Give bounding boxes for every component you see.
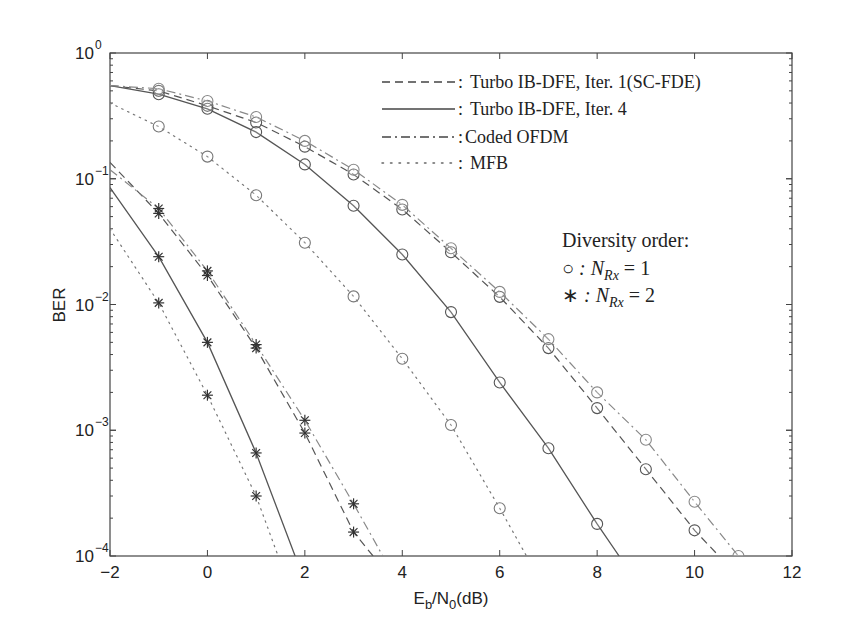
legend-label: Turbo IB-DFE, Iter. 4 (470, 99, 627, 119)
x-axis-label: Eb/N0(dB) (414, 589, 489, 612)
x-tick-label: 12 (783, 563, 802, 582)
x-tick-label: 2 (300, 563, 309, 582)
x-tick-label: 0 (203, 563, 212, 582)
star-marker (299, 428, 310, 439)
circle-marker (733, 551, 744, 562)
y-tick-exponent: −3 (95, 415, 109, 429)
legend-label: Turbo IB-DFE, Iter. 1(SC-FDE) (470, 72, 701, 93)
legend-colon: : (458, 153, 463, 173)
circle-marker (689, 525, 700, 536)
x-tick-label: 8 (592, 563, 601, 582)
circle-marker (494, 377, 505, 388)
y-tick-labels: 10010−110−210−310−4 (75, 38, 109, 566)
y-tick-exponent: −1 (95, 164, 109, 178)
circle-marker (153, 83, 164, 94)
circle-marker (446, 307, 457, 318)
circle-marker (299, 135, 310, 146)
circle-marker (689, 496, 700, 507)
circle-marker (397, 249, 408, 260)
y-axis-label: BER (50, 288, 69, 323)
star-marker (202, 390, 213, 401)
legend-label: Coded OFDM (465, 127, 569, 147)
star-marker (153, 251, 164, 262)
circle-marker (543, 334, 554, 345)
star-marker (251, 491, 262, 502)
x-tick-label: −2 (100, 563, 119, 582)
star-marker (153, 203, 164, 214)
circle-marker (251, 190, 262, 201)
star-marker (348, 498, 359, 509)
circle-marker (251, 127, 262, 138)
circle-marker (543, 443, 554, 454)
x-tick-label: 4 (398, 563, 407, 582)
circle-marker (348, 164, 359, 175)
y-tick-label: 10 (75, 547, 94, 566)
circle-marker (494, 286, 505, 297)
y-tick-exponent: 0 (95, 38, 102, 52)
circle-marker (202, 151, 213, 162)
circle-marker (251, 111, 262, 122)
plot-frame (110, 53, 792, 556)
circle-marker (348, 291, 359, 302)
circle-marker (640, 434, 651, 445)
star-marker (348, 527, 359, 538)
annotation-title: Diversity order: (562, 229, 689, 252)
x-tick-label: 6 (495, 563, 504, 582)
star-marker (153, 297, 164, 308)
circle-marker (299, 237, 310, 248)
star-marker (299, 415, 310, 426)
circle-marker (494, 503, 505, 514)
y-tick-label: 10 (75, 170, 94, 189)
ber-chart: −2024681012 10010−110−210−310−4 Eb/N0(dB… (0, 0, 842, 641)
circle-marker (592, 518, 603, 529)
legend-colon: : (458, 99, 463, 119)
legend-colon: : (458, 127, 463, 147)
y-tick-exponent: −2 (95, 290, 109, 304)
star-marker (251, 339, 262, 350)
circle-marker (397, 353, 408, 364)
circle-marker (348, 200, 359, 211)
svg-text:Eb/N0(dB): Eb/N0(dB) (414, 589, 489, 612)
x-tick-label: 10 (685, 563, 704, 582)
y-tick-label: 10 (75, 296, 94, 315)
circle-marker (153, 121, 164, 132)
y-axis-title: BER (50, 288, 69, 323)
circle-marker (202, 96, 213, 107)
circle-marker (640, 464, 651, 475)
y-tick-exponent: −4 (95, 541, 109, 555)
star-marker (251, 447, 262, 458)
star-marker (202, 337, 213, 348)
legend-colon: : (458, 72, 463, 92)
star-marker (202, 265, 213, 276)
y-tick-label: 10 (75, 421, 94, 440)
legend-label: MFB (470, 153, 508, 173)
y-tick-label: 10 (75, 44, 94, 63)
circle-marker (299, 159, 310, 170)
circle-marker (446, 243, 457, 254)
circle-marker (592, 403, 603, 414)
x-tick-labels: −2024681012 (100, 563, 801, 582)
circle-marker (397, 199, 408, 210)
circle-marker (592, 387, 603, 398)
circle-marker (446, 420, 457, 431)
